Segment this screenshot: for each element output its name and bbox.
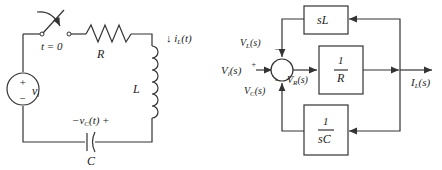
sum-minus-top: − <box>274 44 280 54</box>
resistor-label: R <box>96 47 105 61</box>
source-plus: + <box>19 76 26 88</box>
wire-bottom-right <box>95 124 152 142</box>
output-label: IL(s) <box>410 76 431 90</box>
block-r-denominator: R <box>336 71 345 85</box>
switch-blade <box>43 10 64 33</box>
block-sl-label: sL <box>317 13 329 27</box>
wire-resistor-inductor <box>131 34 152 46</box>
current-label: ↓ iL(t) <box>166 32 192 46</box>
block-r-numerator: 1 <box>338 54 344 66</box>
inductor-label: L <box>132 82 140 96</box>
vl-label: VL(s) <box>240 37 261 50</box>
input-label: Vi(s) <box>221 64 242 78</box>
diagram-canvas: + − vi t = 0 R L C ↓ iL(t) −vC(t) + Vi(s… <box>0 0 442 170</box>
sum-plus-sign: + <box>251 60 256 69</box>
switch-label: t = 0 <box>41 40 63 52</box>
source-minus: − <box>19 92 26 104</box>
switch-terminal-right <box>67 32 71 36</box>
block-sc-numerator: 1 <box>323 115 329 127</box>
capacitor-voltage-label: −vC(t) + <box>72 114 110 128</box>
block-diagram: Vi(s) + − − VL(s) VC(s) VR(s) sL 1 R 1 s… <box>221 6 432 155</box>
capacitor-label: C <box>87 154 96 168</box>
rlc-circuit: + − vi t = 0 R L C ↓ iL(t) −vC(t) + <box>7 10 192 168</box>
vc-label: VC(s) <box>244 85 266 98</box>
resistor-symbol <box>86 25 131 42</box>
inductor-symbol <box>152 46 158 118</box>
vr-label: VR(s) <box>287 74 309 87</box>
sum-minus-bottom: − <box>274 75 280 85</box>
block-sc-denominator: sC <box>318 132 332 146</box>
arrow-vc-to-sum <box>282 83 304 131</box>
capacitor-plate-curved <box>93 132 96 152</box>
arrow-vl-to-sum <box>282 19 304 57</box>
